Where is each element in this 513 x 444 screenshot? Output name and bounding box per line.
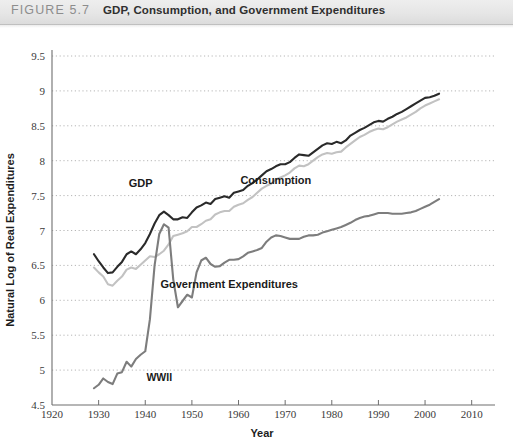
y-tick-label-7: 7 xyxy=(40,225,46,237)
x-tick-label-1940: 1940 xyxy=(134,408,157,420)
y-axis-title: Natural Log of Real Expenditures xyxy=(4,153,16,327)
y-tick-label-5.5: 5.5 xyxy=(31,329,45,341)
series-label-gdp: GDP xyxy=(129,177,153,189)
figure-number-label: FIGURE 5.7 xyxy=(11,3,90,17)
y-tick-label-4.5: 4.5 xyxy=(31,399,45,411)
chart-plot-area: 1920193019401950196019701980199020002010… xyxy=(0,28,513,444)
data-series-group xyxy=(94,94,439,389)
x-tick-label-1970: 1970 xyxy=(274,408,297,420)
y-tick-label-6: 6 xyxy=(40,294,46,306)
series-line-consumption xyxy=(94,99,439,285)
x-tick-label-2000: 2000 xyxy=(414,408,437,420)
y-tick-label-8.5: 8.5 xyxy=(31,120,45,132)
y-tick-label-9: 9 xyxy=(40,85,46,97)
figure-title: GDP, Consumption, and Government Expendi… xyxy=(103,4,385,16)
x-tick-label-1980: 1980 xyxy=(321,408,344,420)
x-tick-label-1950: 1950 xyxy=(181,408,204,420)
annotation-wwii: WWII xyxy=(146,371,172,383)
y-tick-label-5: 5 xyxy=(40,364,46,376)
series-label-consumption: Consumption xyxy=(240,174,311,186)
x-tick-label-1960: 1960 xyxy=(228,408,251,420)
y-tick-label-7.5: 7.5 xyxy=(31,190,45,202)
x-tick-label-1990: 1990 xyxy=(367,408,390,420)
line-chart-svg: 1920193019401950196019701980199020002010… xyxy=(0,28,513,444)
series-line-government-expenditures xyxy=(94,199,439,388)
series-label-group: GDPConsumptionGovernment Expenditures xyxy=(129,174,312,291)
x-tick-group: 1920193019401950196019701980199020002010 xyxy=(41,400,483,420)
figure-header-band: FIGURE 5.7 GDP, Consumption, and Governm… xyxy=(0,0,513,25)
x-tick-label-2010: 2010 xyxy=(461,408,484,420)
x-axis-title: Year xyxy=(250,427,274,439)
x-tick-label-1930: 1930 xyxy=(88,408,111,420)
y-tick-group: 4.555.566.577.588.599.5 xyxy=(31,50,45,411)
y-tick-label-6.5: 6.5 xyxy=(31,259,45,271)
y-tick-label-8: 8 xyxy=(40,155,46,167)
figure-container: FIGURE 5.7 GDP, Consumption, and Governm… xyxy=(0,0,513,444)
annotation-group: WWII xyxy=(146,371,172,383)
y-tick-label-9.5: 9.5 xyxy=(31,50,45,62)
series-label-government-expenditures: Government Expenditures xyxy=(160,278,298,290)
